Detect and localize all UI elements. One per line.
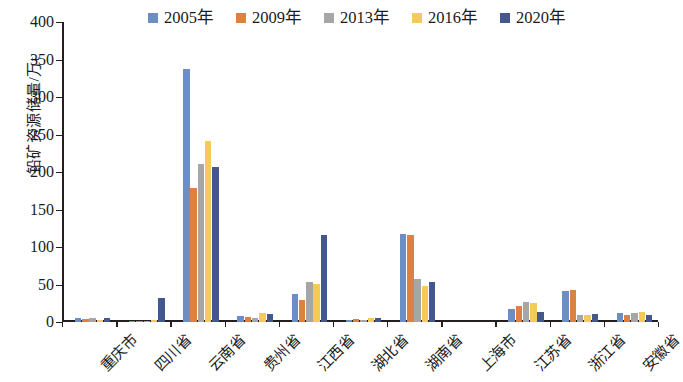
bar[interactable] xyxy=(299,300,305,323)
bar[interactable] xyxy=(346,320,352,322)
bar[interactable] xyxy=(429,282,435,322)
y-axis-tick xyxy=(56,135,62,136)
bar[interactable] xyxy=(584,315,590,322)
bar[interactable] xyxy=(368,318,374,323)
x-axis-label: 四川省 xyxy=(152,332,194,374)
x-axis-tick xyxy=(170,322,171,327)
bar[interactable] xyxy=(592,314,598,322)
bar[interactable] xyxy=(190,188,196,322)
bar[interactable] xyxy=(89,318,95,323)
x-axis-tick xyxy=(441,322,442,327)
bar[interactable] xyxy=(75,318,81,322)
y-axis-tick xyxy=(56,22,62,23)
y-axis-tick xyxy=(56,172,62,173)
y-axis-tick-label: 350 xyxy=(14,52,54,68)
bar[interactable] xyxy=(292,294,298,322)
x-axis-label: 江西省 xyxy=(315,332,357,374)
bar[interactable] xyxy=(562,291,568,323)
x-axis-label: 江苏省 xyxy=(532,332,574,374)
plot-area: 050100150200250300350400 xyxy=(62,22,658,322)
bar[interactable] xyxy=(631,313,637,322)
bar-group xyxy=(129,22,165,322)
bar[interactable] xyxy=(646,315,652,322)
bar[interactable] xyxy=(570,290,576,322)
x-axis-tick xyxy=(604,322,605,327)
bar-group xyxy=(75,22,111,322)
bar[interactable] xyxy=(516,306,522,323)
bar-group xyxy=(617,22,653,322)
bar-group xyxy=(400,22,436,322)
bar[interactable] xyxy=(252,318,258,323)
bar[interactable] xyxy=(624,315,630,323)
bar[interactable] xyxy=(353,319,359,322)
x-axis-label: 安徽省 xyxy=(640,332,682,374)
bar[interactable] xyxy=(617,313,623,322)
x-axis-label: 浙江省 xyxy=(586,332,628,374)
bar[interactable] xyxy=(407,235,413,322)
y-axis-tick-label: 100 xyxy=(14,239,54,255)
bar[interactable] xyxy=(375,318,381,323)
bar[interactable] xyxy=(313,284,319,322)
x-axis-label: 重庆市 xyxy=(98,332,140,374)
x-axis-tick xyxy=(495,322,496,327)
bar-group xyxy=(454,22,490,322)
x-axis-label: 云南省 xyxy=(207,332,249,374)
bar[interactable] xyxy=(400,234,406,323)
bar[interactable] xyxy=(136,321,142,323)
bar[interactable] xyxy=(422,286,428,322)
x-axis-tick xyxy=(387,322,388,327)
bar-group xyxy=(183,22,219,322)
bar[interactable] xyxy=(306,282,312,322)
y-axis-tick-label: 300 xyxy=(14,89,54,105)
y-axis-tick-label: 150 xyxy=(14,202,54,218)
bar[interactable] xyxy=(508,309,514,323)
y-axis-tick xyxy=(56,60,62,61)
x-axis-label: 上海市 xyxy=(478,332,520,374)
bar[interactable] xyxy=(183,69,189,323)
bar[interactable] xyxy=(259,313,265,322)
y-axis-tick-label: 0 xyxy=(14,314,54,330)
bar[interactable] xyxy=(158,298,164,322)
bar[interactable] xyxy=(530,303,536,322)
x-axis-label: 湖北省 xyxy=(369,332,411,374)
x-axis-tick xyxy=(333,322,334,327)
y-axis-tick xyxy=(56,97,62,98)
bar[interactable] xyxy=(198,164,204,322)
bar[interactable] xyxy=(82,319,88,322)
bar[interactable] xyxy=(151,320,157,322)
bar-group xyxy=(237,22,273,322)
bar[interactable] xyxy=(360,320,366,322)
x-axis-tick xyxy=(550,322,551,327)
bar[interactable] xyxy=(639,312,645,323)
x-axis-label: 湖南省 xyxy=(423,332,465,374)
bar-group xyxy=(346,22,382,322)
x-axis-tick xyxy=(116,322,117,327)
y-axis-tick-label: 250 xyxy=(14,127,54,143)
x-axis-tick xyxy=(279,322,280,327)
bar[interactable] xyxy=(537,312,543,323)
bar[interactable] xyxy=(104,318,110,322)
bar[interactable] xyxy=(237,316,243,322)
y-axis-line xyxy=(62,22,64,322)
y-axis-tick-label: 400 xyxy=(14,14,54,30)
bar[interactable] xyxy=(414,279,420,322)
bar[interactable] xyxy=(245,317,251,322)
bar[interactable] xyxy=(267,314,273,322)
y-axis-tick-label: 50 xyxy=(14,277,54,293)
bar[interactable] xyxy=(577,315,583,323)
bar[interactable] xyxy=(97,320,103,322)
bar[interactable] xyxy=(205,141,211,322)
bar[interactable] xyxy=(523,302,529,322)
y-axis-tick xyxy=(56,247,62,248)
bar[interactable] xyxy=(144,321,150,323)
y-axis-tick xyxy=(56,285,62,286)
bar[interactable] xyxy=(212,167,218,322)
bar[interactable] xyxy=(321,235,327,322)
x-axis-tick xyxy=(62,322,63,327)
x-axis-label: 贵州省 xyxy=(261,332,303,374)
x-axis-tick xyxy=(225,322,226,327)
bar-group xyxy=(562,22,598,322)
bar[interactable] xyxy=(129,321,135,323)
y-axis-tick-label: 200 xyxy=(14,164,54,180)
